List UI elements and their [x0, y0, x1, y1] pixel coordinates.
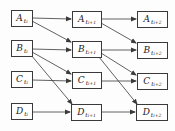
subscript-index: i+2: [153, 20, 161, 25]
node-label: B: [78, 45, 85, 54]
subscript-index: i+2: [154, 82, 162, 87]
edge-b0-d1: [31, 55, 72, 104]
node-label: A: [144, 15, 151, 24]
node-d-ti2: Dti+2: [136, 104, 168, 121]
node-label: A: [16, 14, 23, 23]
node-label: B: [143, 46, 150, 55]
subscript-index: i+1: [88, 50, 96, 55]
node-b-ti: Bti: [11, 40, 33, 57]
edge-b1-c2: [101, 53, 136, 75]
node-subscript: ti+1: [86, 49, 97, 56]
node-label: C: [16, 75, 23, 84]
edge-b0-b1: [32, 49, 71, 50]
node-subscript: ti+2: [151, 81, 162, 88]
node-a-ti2: Ati+2: [137, 11, 168, 28]
edge-a0-b1: [32, 21, 71, 42]
node-label: C: [143, 77, 150, 86]
node-subscript: ti: [24, 18, 28, 25]
subscript-index: i+1: [88, 113, 96, 118]
node-label: A: [78, 15, 85, 24]
edge-a1-b2: [101, 23, 136, 43]
node-label: D: [77, 108, 84, 117]
node-subscript: ti+1: [86, 80, 97, 87]
node-subscript: ti+1: [85, 112, 96, 119]
subscript-index: i+1: [88, 81, 96, 86]
subscript-index: i: [26, 19, 27, 24]
node-label: D: [16, 107, 23, 116]
node-d-ti1: Dti+1: [71, 104, 102, 121]
node-d-ti: Dti: [11, 103, 33, 120]
node-subscript: ti: [24, 111, 28, 118]
node-label: B: [16, 44, 23, 53]
edge-a0-a1: [32, 18, 71, 19]
node-c-ti: Cti: [11, 71, 33, 88]
node-b-ti2: Bti+2: [137, 42, 168, 59]
subscript-index: i: [26, 49, 27, 54]
node-subscript: ti+2: [151, 19, 162, 26]
edge-c0-c1: [32, 80, 71, 81]
node-a-ti1: Ati+1: [72, 11, 102, 28]
node-c-ti2: Cti+2: [137, 73, 168, 90]
subscript-index: i+2: [153, 113, 161, 118]
node-b-ti1: Bti+1: [72, 41, 102, 58]
node-c-ti1: Cti+1: [72, 72, 102, 89]
node-label: C: [78, 76, 85, 85]
subscript-index: i+2: [153, 51, 161, 56]
subscript-index: i: [27, 112, 28, 117]
node-label: D: [143, 108, 150, 117]
subscript-index: i+1: [88, 20, 96, 25]
node-subscript: ti+2: [151, 112, 162, 119]
node-a-ti: Ati: [11, 10, 33, 27]
node-subscript: ti+1: [86, 19, 97, 26]
node-subscript: ti: [24, 48, 28, 55]
node-subscript: ti+2: [151, 50, 162, 57]
dynamic-bayesian-network-diagram: Ati Bti Cti Dti Ati+1 Bti+1 Cti+1 Dti+1 …: [0, 0, 175, 131]
node-subscript: ti: [24, 79, 28, 86]
subscript-index: i: [26, 80, 27, 85]
